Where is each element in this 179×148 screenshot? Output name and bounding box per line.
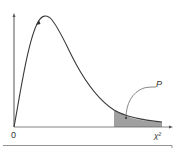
chi-square-diagram [0, 0, 179, 148]
x-axis-label: χ² [154, 131, 161, 140]
p-leader-dot [125, 117, 127, 119]
density-curve [14, 16, 162, 127]
origin-label: 0 [11, 131, 16, 140]
y-axis-arrow-icon [13, 13, 16, 17]
x-axis-arrow-icon [169, 126, 173, 129]
tail-area-label: P [156, 80, 162, 89]
p-leader-line [126, 87, 156, 118]
